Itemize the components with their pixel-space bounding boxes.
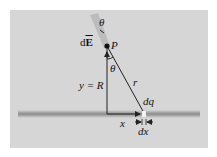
label-theta-top: θ	[99, 17, 104, 28]
theta-arc	[107, 57, 113, 59]
label-P: P	[111, 40, 118, 51]
label-theta-mid: θ	[110, 63, 115, 74]
label-dx: dx	[138, 126, 148, 137]
label-dE-vector: E	[86, 36, 93, 48]
label-dq: dq	[143, 96, 154, 107]
r-line	[107, 46, 144, 113]
point-P	[104, 43, 109, 48]
charge-element-dq	[142, 111, 146, 117]
label-y-equals-R: y = R	[79, 80, 104, 91]
label-dE: dE	[80, 37, 93, 48]
diagram-svg	[0, 0, 217, 157]
label-x: x	[120, 118, 125, 129]
label-r: r	[133, 77, 137, 88]
